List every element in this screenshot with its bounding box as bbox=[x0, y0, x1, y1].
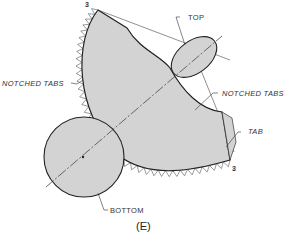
notch-tab bbox=[76, 55, 82, 62]
label-bottom: BOTTOM bbox=[110, 206, 144, 215]
notch-tab bbox=[76, 62, 82, 69]
label-top: TOP bbox=[188, 13, 204, 22]
label-seam-end: 3 bbox=[232, 165, 236, 172]
label-notched-tabs-right: NOTCHED TABS bbox=[222, 89, 284, 98]
leader-top bbox=[176, 17, 185, 45]
pattern-diagram: TOP NOTCHED TABS NOTCHED TABS TAB BOTTOM… bbox=[0, 0, 291, 234]
leader-bottom bbox=[98, 193, 108, 210]
label-seam-start: 3 bbox=[85, 1, 89, 8]
notch-tab bbox=[166, 171, 173, 177]
label-notched-tabs-left: NOTCHED TABS bbox=[2, 79, 64, 88]
figure-caption: (E) bbox=[136, 220, 151, 232]
label-tab: TAB bbox=[248, 127, 263, 136]
center-point bbox=[82, 156, 84, 158]
